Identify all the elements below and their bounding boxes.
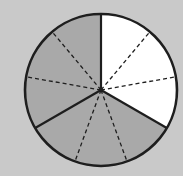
circle-diagram-svg — [0, 0, 183, 176]
center-point — [99, 88, 103, 92]
fraction-circle-diagram — [0, 0, 183, 176]
